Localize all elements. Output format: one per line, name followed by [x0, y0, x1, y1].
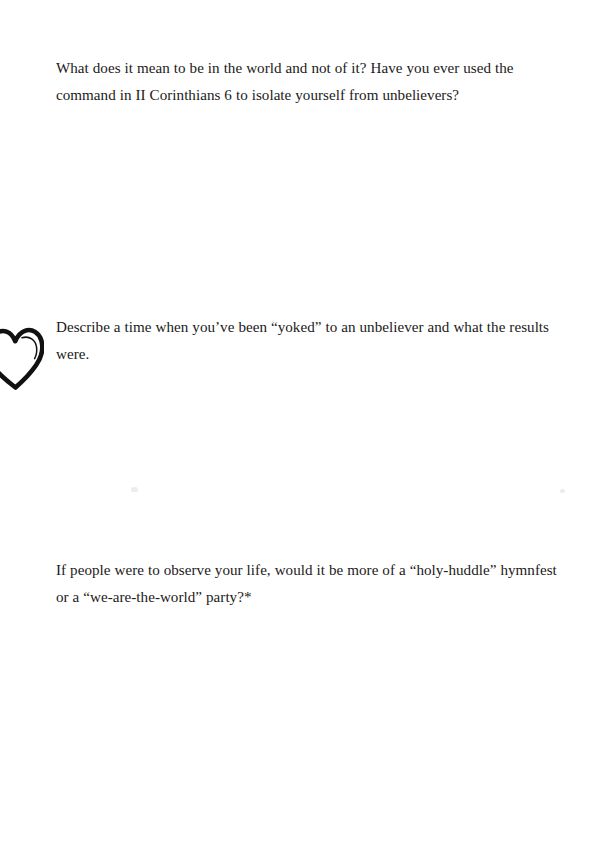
scan-speck-right: [560, 489, 565, 493]
question-paragraph-1: What does it mean to be in the world and…: [56, 55, 572, 109]
scan-speck-left: [131, 487, 138, 492]
question-paragraph-3: If people were to observe your life, wou…: [56, 557, 572, 611]
heart-doodle: [0, 322, 44, 390]
question-list: What does it mean to be in the world and…: [56, 0, 572, 845]
question-paragraph-2: Describe a time when you’ve been “yoked”…: [56, 314, 568, 368]
document-page: What does it mean to be in the world and…: [0, 0, 600, 845]
